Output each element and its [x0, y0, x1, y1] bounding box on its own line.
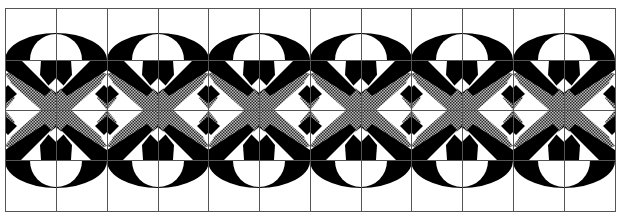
- pattern-diagram: [0, 0, 621, 218]
- grid-lines: [5, 8, 616, 212]
